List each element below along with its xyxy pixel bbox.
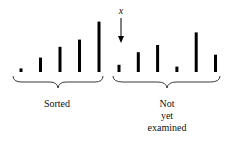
- unsorted-label-line-3: examined: [148, 122, 187, 133]
- unsorted-bar-3: [156, 45, 159, 72]
- sorted-bar-5: [98, 22, 101, 72]
- arrow-head-icon: [118, 36, 124, 43]
- unsorted-bar-4: [175, 67, 178, 72]
- sorted-bar-3: [59, 47, 62, 72]
- sorted-bar-1: [20, 68, 23, 72]
- sorted-brace: [13, 76, 103, 88]
- unsorted-bar-2: [137, 52, 140, 72]
- unsorted-bar-5: [195, 32, 198, 72]
- unsorted-label-line-2: yet: [161, 110, 173, 121]
- sorted-label: Sorted: [44, 98, 70, 109]
- unsorted-bars: [118, 32, 218, 72]
- sorted-bar-4: [78, 40, 81, 72]
- marker-label: x: [118, 5, 124, 16]
- unsorted-brace: [113, 76, 220, 88]
- sorted-bars: [20, 22, 101, 72]
- marker-arrow: x: [118, 5, 124, 43]
- unsorted-bar-1: [118, 65, 121, 72]
- unsorted-label-line-1: Not: [160, 98, 175, 109]
- unsorted-bar-6: [214, 55, 217, 72]
- insertion-sort-diagram: x Sorted Not yet examined: [0, 0, 231, 142]
- sorted-bar-2: [39, 58, 42, 72]
